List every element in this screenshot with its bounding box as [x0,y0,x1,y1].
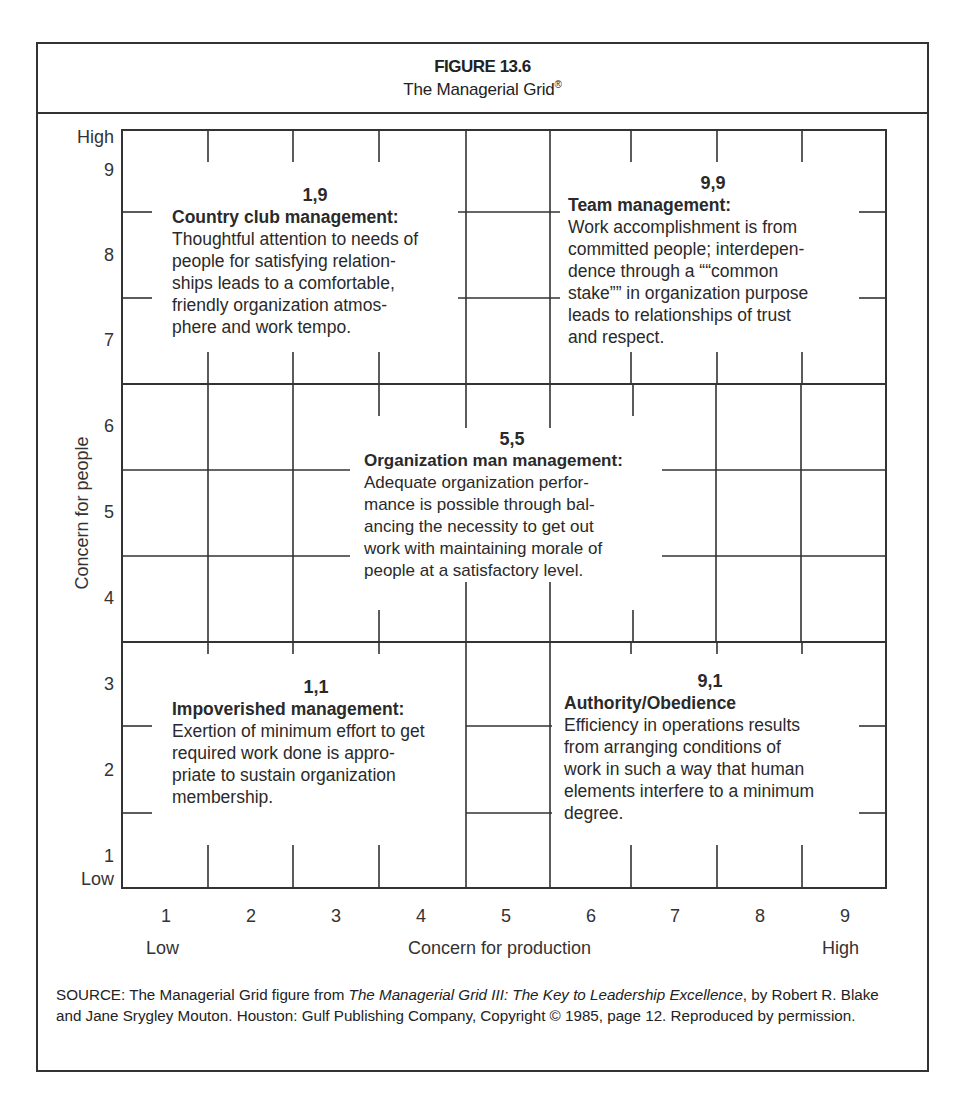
style-block-authority-obedience: 9,1 Authority/Obedience Efficiency in op… [564,670,856,824]
y-axis-high-label: High [74,127,114,148]
style-description: Efficiency in operations results from ar… [564,714,856,824]
x-axis-title: Concern for production [408,938,591,959]
style-coord: 5,5 [364,428,660,450]
style-block-team: 9,9 Team management: Work accomplishment… [568,172,858,348]
y-tick-3: 3 [74,674,114,695]
x-tick-6: 6 [576,906,606,927]
x-tick-9: 9 [830,906,860,927]
x-tick-2: 2 [236,906,266,927]
style-description: Thoughtful attention to needs of people … [172,228,458,338]
y-axis-low-label: Low [74,869,114,890]
x-tick-4: 4 [406,906,436,927]
y-tick-9: 9 [74,160,114,181]
x-tick-3: 3 [321,906,351,927]
style-name: Team management: [568,194,858,216]
style-block-impoverished: 1,1 Impoverished management: Exertion of… [172,676,460,808]
style-name: Impoverished management: [172,698,460,720]
style-name: Country club management: [172,206,458,228]
y-tick-8: 8 [74,245,114,266]
x-tick-5: 5 [491,906,521,927]
style-coord: 9,9 [568,172,858,194]
x-axis-low-label: Low [146,938,179,959]
style-name: Authority/Obedience [564,692,856,714]
style-description: Exertion of minimum effort to get requir… [172,720,460,808]
style-name: Organization man management: [364,450,660,472]
style-block-organization-man: 5,5 Organization man management: Adequat… [364,428,660,582]
source-prefix: SOURCE: The Managerial Grid figure from [56,986,349,1003]
source-citation: SOURCE: The Managerial Grid figure from … [56,984,896,1026]
style-coord: 9,1 [564,670,856,692]
source-book-title: The Managerial Grid III: The Key to Lead… [349,986,743,1003]
y-tick-4: 4 [74,588,114,609]
x-tick-8: 8 [745,906,775,927]
style-description: Adequate organization perfor- mance is p… [364,472,660,582]
y-tick-2: 2 [74,760,114,781]
y-axis-title: Concern for people [72,436,93,589]
style-description: Work accomplishment is from committed pe… [568,216,858,348]
x-tick-1: 1 [151,906,181,927]
style-coord: 1,9 [172,184,458,206]
x-tick-7: 7 [660,906,690,927]
y-tick-6: 6 [74,416,114,437]
style-block-country-club: 1,9 Country club management: Thoughtful … [172,184,458,338]
x-axis-high-label: High [822,938,859,959]
style-coord: 1,1 [172,676,460,698]
y-tick-7: 7 [74,330,114,351]
y-tick-1: 1 [74,846,114,867]
